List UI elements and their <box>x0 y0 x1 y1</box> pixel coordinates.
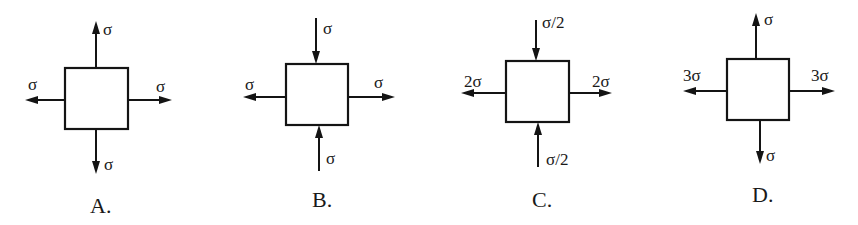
stress-arrow-top-outward: σ <box>92 20 112 68</box>
stress-magnitude-label: σ <box>323 19 332 38</box>
stress-arrow-top-inward: σ/2 <box>532 13 564 61</box>
stress-magnitude-label: σ <box>156 77 165 96</box>
arrowhead-icon <box>534 122 542 135</box>
arrowhead-icon <box>683 87 696 95</box>
stress-magnitude-label: 3σ <box>811 66 829 85</box>
option-d: σσ3σ3σD. <box>683 10 835 207</box>
stress-arrow-top-outward: σ <box>752 10 773 59</box>
stress-arrow-right-outward: 3σ <box>789 66 835 95</box>
stress-arrow-bottom-outward: σ <box>756 120 775 165</box>
option-label: C. <box>532 187 552 212</box>
option-b: σσσσB. <box>243 18 395 212</box>
stress-magnitude-label: σ <box>103 20 112 39</box>
arrowhead-icon <box>756 151 764 164</box>
stress-arrow-left-outward: 2σ <box>461 72 506 97</box>
stress-element-square <box>65 68 128 129</box>
stress-arrow-left-outward: σ <box>243 75 286 101</box>
option-label: B. <box>312 187 332 212</box>
arrowhead-icon <box>315 125 323 138</box>
arrowhead-icon <box>532 48 540 61</box>
stress-arrow-bottom-inward: σ <box>315 125 335 171</box>
arrowhead-icon <box>312 51 320 64</box>
stress-magnitude-label: σ <box>326 149 335 168</box>
stress-magnitude-label: 2σ <box>592 72 610 91</box>
stress-arrow-top-inward: σ <box>312 18 332 64</box>
stress-element-square <box>286 64 348 125</box>
arrowhead-icon <box>382 93 395 101</box>
option-a: σσσσA. <box>25 20 172 218</box>
arrowhead-icon <box>752 13 760 26</box>
arrowhead-icon <box>243 93 256 101</box>
stress-magnitude-label: σ <box>28 75 37 94</box>
arrowhead-icon <box>92 161 100 174</box>
option-label: A. <box>90 193 111 218</box>
arrowhead-icon <box>92 21 100 34</box>
arrowhead-icon <box>25 96 38 104</box>
stress-arrow-right-outward: σ <box>348 73 395 101</box>
stress-magnitude-label: σ <box>764 10 773 29</box>
stress-arrow-right-outward: σ <box>128 77 172 104</box>
option-label: D. <box>752 182 773 207</box>
option-c: σ/2σ/22σ2σC. <box>461 13 612 212</box>
stress-magnitude-label: 3σ <box>683 66 701 85</box>
stress-magnitude-label: 2σ <box>464 72 482 91</box>
stress-element-square <box>727 59 789 120</box>
stress-arrow-bottom-inward: σ/2 <box>534 122 568 169</box>
stress-arrow-left-outward: 3σ <box>683 66 727 95</box>
stress-element-figure: σσσσA.σσσσB.σ/2σ/22σ2σC.σσ3σ3σD. <box>0 0 858 225</box>
arrowhead-icon <box>822 87 835 95</box>
stress-arrow-left-outward: σ <box>25 75 65 104</box>
stress-magnitude-label: σ <box>766 146 775 165</box>
diagram-canvas: σσσσA.σσσσB.σ/2σ/22σ2σC.σσ3σ3σD. <box>0 0 858 225</box>
stress-element-square <box>506 61 569 122</box>
stress-magnitude-label: σ <box>104 155 113 174</box>
stress-arrow-bottom-outward: σ <box>92 129 113 174</box>
stress-magnitude-label: σ/2 <box>542 13 564 32</box>
stress-magnitude-label: σ <box>245 75 254 94</box>
stress-magnitude-label: σ <box>374 73 383 92</box>
stress-magnitude-label: σ/2 <box>546 150 568 169</box>
arrowhead-icon <box>159 96 172 104</box>
stress-arrow-right-outward: 2σ <box>569 72 612 97</box>
